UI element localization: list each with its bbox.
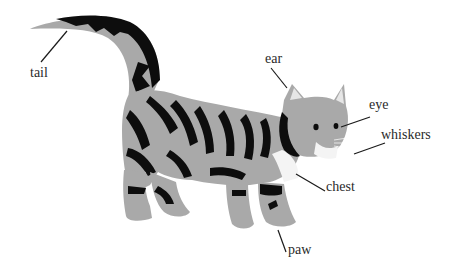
label-whiskers: whiskers — [381, 128, 431, 142]
leader-line-paw — [278, 230, 286, 252]
left-eye-icon — [313, 124, 318, 130]
label-eye: eye — [369, 98, 388, 112]
cat-tail — [30, 16, 160, 100]
label-ear: ear — [265, 52, 282, 66]
leader-line-chest — [296, 174, 325, 191]
leader-line-whiskers — [354, 143, 385, 154]
cat-body — [122, 90, 300, 190]
label-paw: paw — [288, 243, 311, 257]
label-tail: tail — [30, 66, 48, 80]
leader-line-ear — [271, 68, 287, 88]
label-chest: chest — [326, 180, 355, 194]
cat-head — [279, 84, 360, 159]
leader-line-tail — [41, 31, 67, 62]
cat-front-legs — [226, 180, 296, 229]
right-eye-icon — [334, 123, 339, 129]
cat-diagram: tail ear eye whiskers chest paw — [0, 0, 458, 278]
